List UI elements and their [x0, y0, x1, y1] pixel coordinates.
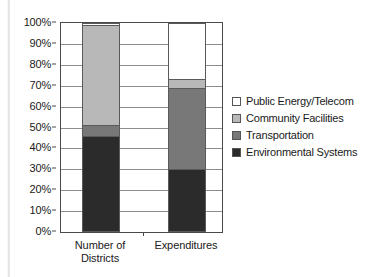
y-tick-label-90%: 90%	[30, 37, 51, 48]
plot-area	[60, 22, 223, 233]
legend-label: Transportation	[246, 129, 314, 141]
legend-swatch-icon	[232, 114, 241, 123]
x-tick-mark-divider	[143, 232, 144, 236]
y-tick-label-100%: 100%	[24, 17, 51, 28]
bar-segment-public-energy-telecom	[82, 23, 120, 25]
legend-item-transportation[interactable]: Transportation	[232, 127, 373, 143]
bar-segment-transportation	[168, 88, 206, 170]
legend-swatch-icon	[232, 131, 241, 140]
y-tick-mark-100	[52, 22, 56, 23]
y-tick-mark-80	[52, 63, 56, 64]
y-tick-label-50%: 50%	[30, 121, 51, 132]
bar-segment-environmental-systems	[168, 169, 206, 232]
bar-segment-community-facilities	[168, 79, 206, 87]
legend-label: Environmental Systems	[246, 146, 357, 158]
chart-legend: Public Energy/TelecomCommunity Facilitie…	[232, 93, 373, 161]
y-tick-mark-40	[52, 147, 56, 148]
y-tick-mark-50	[52, 126, 56, 127]
bar-number-of-districts	[82, 23, 120, 232]
y-tick-mark-30	[52, 168, 56, 169]
y-tick-label-30%: 30%	[30, 163, 51, 174]
legend-item-environmental-systems[interactable]: Environmental Systems	[232, 144, 373, 160]
x-category-label-line1: Expenditures	[131, 239, 241, 252]
y-tick-label-40%: 40%	[30, 142, 51, 153]
y-tick-label-60%: 60%	[30, 100, 51, 111]
y-tick-mark-60	[52, 105, 56, 106]
bar-segment-public-energy-telecom	[168, 23, 206, 79]
bar-segment-community-facilities	[82, 25, 120, 125]
legend-label: Public Energy/Telecom	[246, 95, 354, 107]
x-category-label-expenditures: Expenditures	[131, 239, 241, 252]
legend-swatch-icon	[232, 97, 241, 106]
stacked-bar-chart: 0%10%20%30%40%50%60%70%80%90%100% Number…	[0, 0, 373, 277]
y-axis: 0%10%20%30%40%50%60%70%80%90%100%	[0, 22, 56, 231]
y-tick-mark-20	[52, 189, 56, 190]
y-tick-label-20%: 20%	[30, 184, 51, 195]
bar-segment-environmental-systems	[82, 136, 120, 232]
y-tick-mark-70	[52, 84, 56, 85]
legend-item-community-facilities[interactable]: Community Facilities	[232, 110, 373, 126]
bar-segment-transportation	[82, 125, 120, 135]
y-tick-label-80%: 80%	[30, 58, 51, 69]
y-tick-mark-90	[52, 42, 56, 43]
y-tick-label-0%: 0%	[36, 226, 52, 237]
y-tick-mark-10	[52, 210, 56, 211]
bar-expenditures	[168, 23, 206, 232]
legend-item-public-energy-telecom[interactable]: Public Energy/Telecom	[232, 93, 373, 109]
y-tick-label-10%: 10%	[30, 205, 51, 216]
legend-swatch-icon	[232, 148, 241, 157]
x-category-label-line2: Districts	[45, 252, 155, 265]
y-tick-mark-0	[52, 231, 56, 232]
legend-label: Community Facilities	[246, 112, 343, 124]
y-tick-label-70%: 70%	[30, 79, 51, 90]
